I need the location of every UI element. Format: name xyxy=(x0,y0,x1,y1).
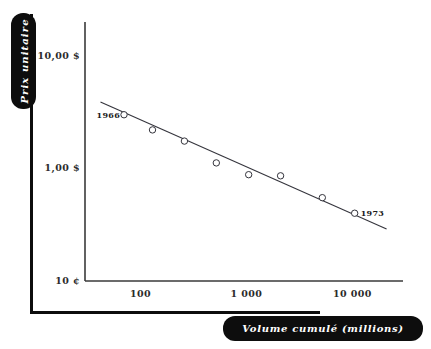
chart-axes xyxy=(85,22,403,281)
data-point[interactable] xyxy=(351,210,357,216)
data-point[interactable] xyxy=(181,138,187,144)
y-tick-label: 1,00 $ xyxy=(20,162,80,173)
trendline-group xyxy=(100,102,386,229)
y-tick-label: 10 ¢ xyxy=(20,275,80,286)
x-axis-title-tab: Volume cumulé (millions) xyxy=(223,316,423,341)
x-tick-label: 1 000 xyxy=(206,288,286,299)
data-point[interactable] xyxy=(149,127,155,133)
series-year-annotation: 1966 xyxy=(92,110,120,120)
data-point[interactable] xyxy=(277,173,283,179)
data-point[interactable] xyxy=(121,112,127,118)
figure-root: Prix unitaire Volume cumulé (millions) 1… xyxy=(0,0,431,349)
trendline xyxy=(100,102,386,229)
x-tick-label: 10 000 xyxy=(312,288,392,299)
data-point[interactable] xyxy=(319,194,325,200)
data-point[interactable] xyxy=(213,160,219,166)
y-axis-title-label: Prix unitaire xyxy=(18,18,29,103)
y-axis-title-tab: Prix unitaire xyxy=(11,13,36,109)
data-point[interactable] xyxy=(245,171,251,177)
x-axis-title-label: Volume cumulé (millions) xyxy=(242,323,403,334)
series-year-annotation: 1973 xyxy=(361,208,391,218)
x-tick-label: 100 xyxy=(100,288,180,299)
